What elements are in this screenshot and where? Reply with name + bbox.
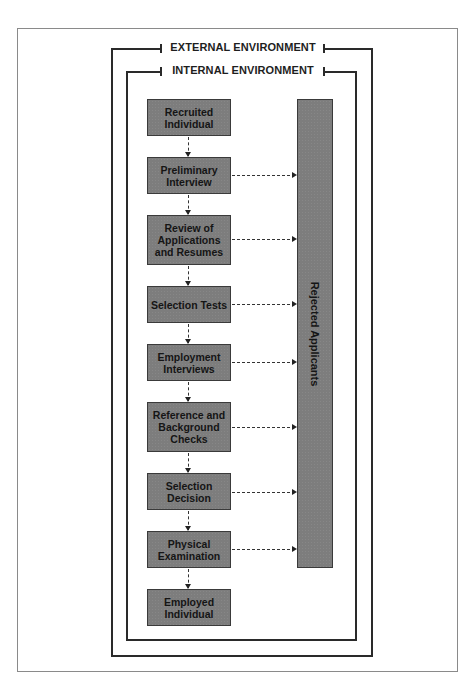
step-label: Preliminary Interview bbox=[150, 164, 228, 188]
reject-arrow bbox=[232, 492, 295, 493]
step-label: Selection Decision bbox=[150, 480, 228, 504]
step-physical-examination: Physical Examination bbox=[147, 531, 231, 568]
step-reference-background-checks: Reference and Background Checks bbox=[147, 402, 231, 452]
down-arrow bbox=[188, 382, 190, 401]
reject-arrow bbox=[232, 175, 295, 176]
down-arrow bbox=[188, 511, 190, 530]
down-arrow bbox=[188, 453, 190, 472]
step-label: Recruited Individual bbox=[150, 106, 228, 130]
reject-arrow bbox=[232, 427, 295, 428]
step-label: Selection Tests bbox=[151, 299, 227, 311]
reject-arrow bbox=[232, 362, 295, 363]
step-label: Physical Examination bbox=[150, 538, 228, 562]
down-arrow bbox=[188, 569, 190, 588]
step-recruited-individual: Recruited Individual bbox=[147, 99, 231, 136]
step-employed-individual: Employed Individual bbox=[147, 589, 231, 626]
down-arrow bbox=[188, 195, 190, 214]
down-arrow bbox=[188, 266, 190, 285]
step-label: Employed Individual bbox=[150, 596, 228, 620]
reject-arrow bbox=[232, 239, 295, 240]
down-arrow bbox=[188, 324, 190, 343]
rejected-applicants-bar: Rejected Applicants bbox=[297, 99, 333, 568]
down-arrow bbox=[188, 137, 190, 156]
reject-arrow bbox=[232, 549, 295, 550]
reject-arrow bbox=[232, 304, 295, 305]
rejected-applicants-label: Rejected Applicants bbox=[309, 281, 321, 386]
internal-environment-label: INTERNAL ENVIRONMENT bbox=[170, 64, 316, 76]
step-label: Employment Interviews bbox=[150, 351, 228, 375]
external-environment-label: EXTERNAL ENVIRONMENT bbox=[170, 41, 316, 53]
figure-frame bbox=[17, 28, 458, 672]
step-selection-decision: Selection Decision bbox=[147, 473, 231, 510]
step-preliminary-interview: Preliminary Interview bbox=[147, 157, 231, 194]
step-employment-interviews: Employment Interviews bbox=[147, 344, 231, 381]
step-label: Review of Applications and Resumes bbox=[150, 222, 228, 258]
step-label: Reference and Background Checks bbox=[150, 409, 228, 445]
step-review-applications: Review of Applications and Resumes bbox=[147, 215, 231, 265]
step-selection-tests: Selection Tests bbox=[147, 286, 231, 323]
